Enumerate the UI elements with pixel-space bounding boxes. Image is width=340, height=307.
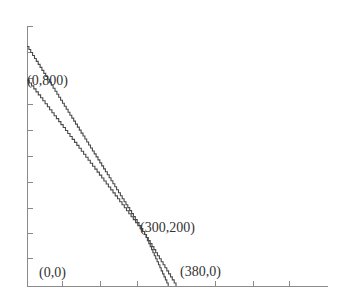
y-axis: [28, 26, 34, 286]
label-0-800: (0,800): [27, 74, 68, 88]
x-axis: [27, 281, 328, 287]
line-chart: [0, 0, 340, 307]
label-0-0: (0,0): [39, 266, 66, 280]
label-300-200: (300,200): [140, 221, 195, 235]
constraint-line-2: [27, 80, 168, 286]
label-380-0: (380,0): [180, 265, 221, 279]
